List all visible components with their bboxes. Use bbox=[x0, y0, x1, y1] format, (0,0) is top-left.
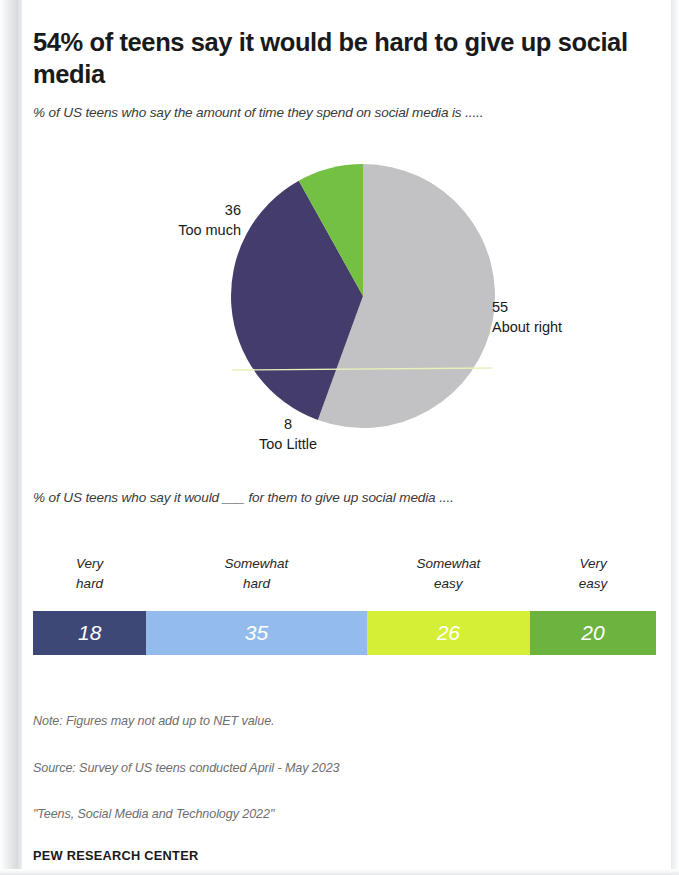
scan-edge-left bbox=[0, 0, 22, 875]
pie-chart: 36 Too much 55 About right 8 Too Little bbox=[22, 140, 671, 470]
stacked-bar-chart: 18352620 bbox=[33, 611, 656, 655]
bar-segment-value: 20 bbox=[581, 621, 604, 645]
pie-label-too-little-value: 8 bbox=[218, 415, 358, 435]
bar-category-label-somewhat-easy: Somewhateasy bbox=[367, 554, 531, 594]
bar-chart-subtitle: % of US teens who say it would ___ for t… bbox=[33, 490, 653, 505]
pie-slices bbox=[231, 164, 495, 428]
pie-chart-subtitle: % of US teens who say the amount of time… bbox=[33, 105, 653, 120]
infographic-page: 54% of teens say it would be hard to giv… bbox=[22, 0, 671, 875]
bar-category-label-very-hard: Veryhard bbox=[33, 554, 146, 594]
bar-category-labels: VeryhardSomewhathardSomewhateasyVeryeasy bbox=[33, 554, 656, 600]
footer-note: Note: Figures may not add up to NET valu… bbox=[33, 714, 275, 728]
footer-source: Source: Survey of US teens conducted Apr… bbox=[33, 761, 339, 775]
bar-segment-somewhat-hard[interactable]: 35 bbox=[146, 611, 366, 655]
pie-label-about-right-value: 55 bbox=[492, 298, 562, 318]
bar-category-label-somewhat-hard: Somewhathard bbox=[146, 554, 366, 594]
scan-edge-right bbox=[671, 0, 679, 875]
footer-report: "Teens, Social Media and Technology 2022… bbox=[33, 807, 274, 821]
page-title: 54% of teens say it would be hard to giv… bbox=[33, 26, 663, 90]
bar-segment-value: 26 bbox=[437, 621, 460, 645]
pie-label-too-much-name: Too much bbox=[178, 222, 241, 238]
bar-segment-somewhat-easy[interactable]: 26 bbox=[367, 611, 531, 655]
bar-segment-very-easy[interactable]: 20 bbox=[530, 611, 656, 655]
bar-segment-very-hard[interactable]: 18 bbox=[33, 611, 146, 655]
bar-segment-value: 18 bbox=[78, 621, 101, 645]
pie-label-too-much: 36 Too much bbox=[178, 201, 241, 240]
bar-category-label-very-easy: Veryeasy bbox=[530, 554, 656, 594]
pie-label-too-little: 8 Too Little bbox=[218, 415, 358, 454]
pie-label-too-little-name: Too Little bbox=[259, 436, 317, 452]
brand-pew-research-center: PEW RESEARCH CENTER bbox=[33, 848, 198, 863]
pie-label-too-much-value: 36 bbox=[178, 201, 241, 221]
bar-segment-value: 35 bbox=[245, 621, 268, 645]
pie-label-about-right: 55 About right bbox=[492, 298, 562, 337]
pie-label-about-right-name: About right bbox=[492, 319, 562, 335]
